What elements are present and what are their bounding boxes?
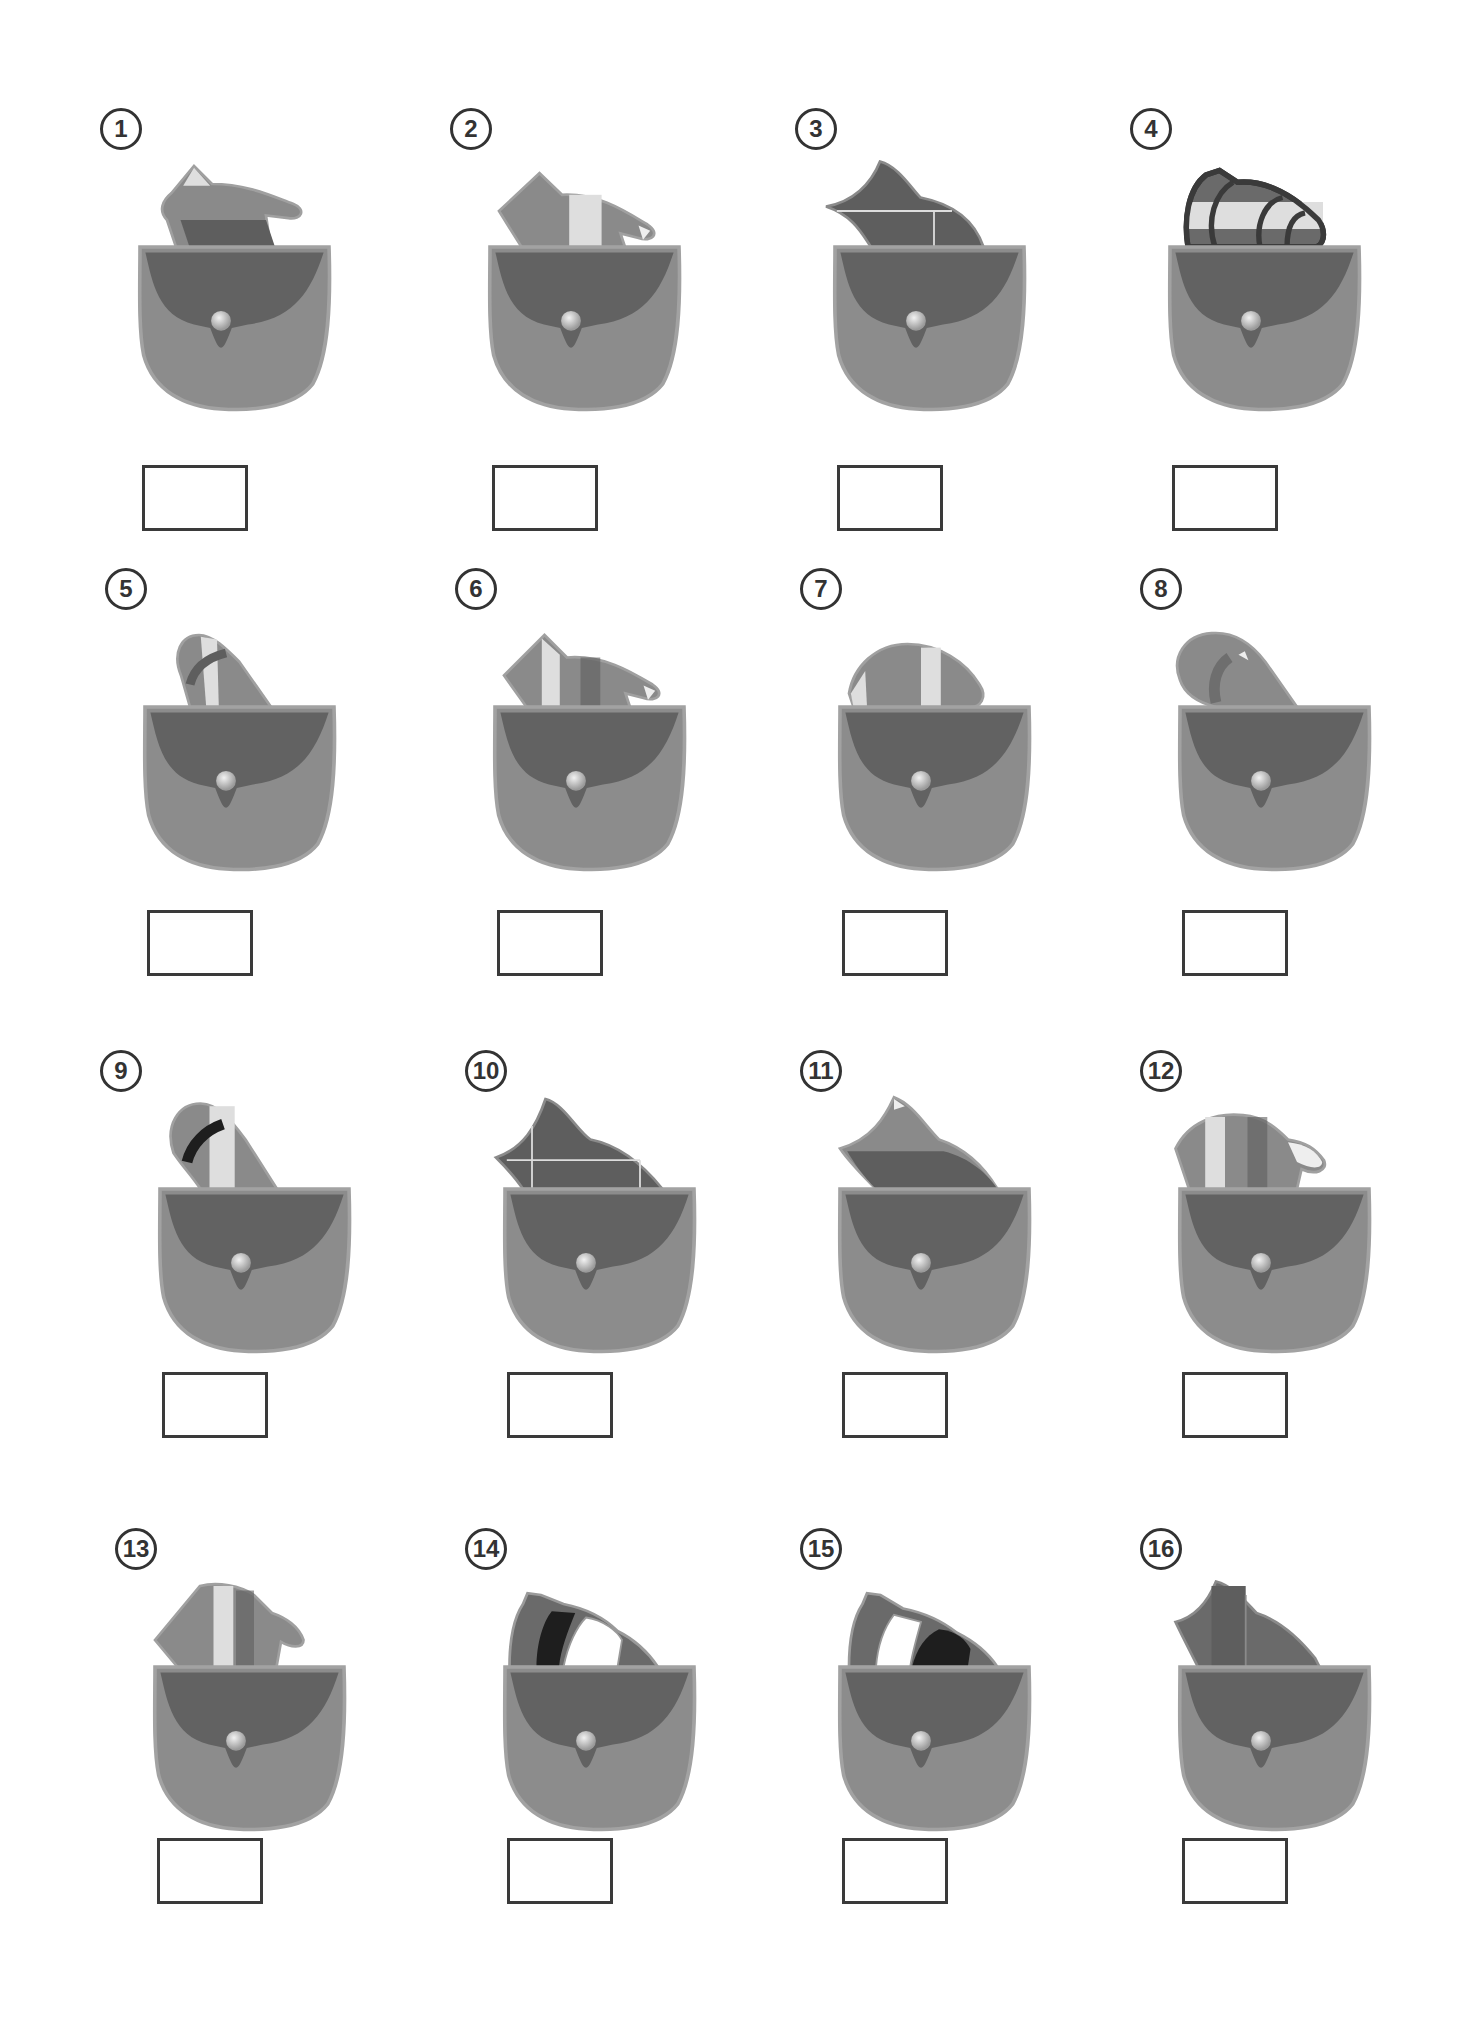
- item-number-badge: 5: [105, 568, 147, 610]
- glove-in-pocket-illustration: [475, 1568, 715, 1838]
- item-number-badge: 7: [800, 568, 842, 610]
- item-number-badge: 14: [465, 1528, 507, 1570]
- answer-box[interactable]: [157, 1838, 263, 1904]
- item-number-badge: 10: [465, 1050, 507, 1092]
- worksheet-item-5: 5: [75, 568, 375, 988]
- glove-in-pocket-illustration: [1150, 1090, 1390, 1360]
- worksheet-item-6: 6: [425, 568, 725, 988]
- worksheet-item-2: 2: [420, 108, 720, 528]
- answer-box[interactable]: [507, 1838, 613, 1904]
- glove-in-pocket-illustration: [1140, 148, 1380, 418]
- glove-in-pocket-illustration: [115, 608, 355, 878]
- item-number-badge: 6: [455, 568, 497, 610]
- item-number-badge: 16: [1140, 1528, 1182, 1570]
- glove-in-pocket-illustration: [1150, 608, 1390, 878]
- glove-in-pocket-illustration: [810, 1090, 1050, 1360]
- answer-box[interactable]: [162, 1372, 268, 1438]
- item-number-badge: 3: [795, 108, 837, 150]
- answer-box[interactable]: [837, 465, 943, 531]
- glove-in-pocket-illustration: [460, 148, 700, 418]
- item-number-badge: 12: [1140, 1050, 1182, 1092]
- answer-box[interactable]: [842, 910, 948, 976]
- item-number-badge: 1: [100, 108, 142, 150]
- glove-in-pocket-illustration: [805, 148, 1045, 418]
- glove-in-pocket-illustration: [810, 608, 1050, 878]
- answer-box[interactable]: [147, 910, 253, 976]
- item-number-badge: 2: [450, 108, 492, 150]
- answer-box[interactable]: [1182, 1838, 1288, 1904]
- worksheet-item-12: 12: [1110, 1050, 1410, 1470]
- worksheet-item-4: 4: [1100, 108, 1400, 528]
- glove-in-pocket-illustration: [810, 1568, 1050, 1838]
- worksheet-item-13: 13: [85, 1528, 385, 1948]
- answer-box[interactable]: [492, 465, 598, 531]
- item-number-badge: 13: [115, 1528, 157, 1570]
- worksheet-item-8: 8: [1110, 568, 1410, 988]
- worksheet-item-3: 3: [765, 108, 1065, 528]
- glove-in-pocket-illustration: [125, 1568, 365, 1838]
- glove-in-pocket-illustration: [130, 1090, 370, 1360]
- answer-box[interactable]: [507, 1372, 613, 1438]
- worksheet-item-16: 16: [1110, 1528, 1410, 1948]
- glove-in-pocket-illustration: [475, 1090, 715, 1360]
- glove-in-pocket-illustration: [110, 148, 350, 418]
- glove-in-pocket-illustration: [1150, 1568, 1390, 1838]
- answer-box[interactable]: [842, 1838, 948, 1904]
- answer-box[interactable]: [1182, 1372, 1288, 1438]
- item-number-badge: 8: [1140, 568, 1182, 610]
- worksheet-item-9: 9: [90, 1050, 390, 1470]
- item-number-badge: 11: [800, 1050, 842, 1092]
- worksheet-item-10: 10: [435, 1050, 735, 1470]
- worksheet-item-1: 1: [70, 108, 370, 528]
- worksheet-item-15: 15: [770, 1528, 1070, 1948]
- glove-in-pocket-illustration: [465, 608, 705, 878]
- answer-box[interactable]: [142, 465, 248, 531]
- worksheet-item-11: 11: [770, 1050, 1070, 1470]
- item-number-badge: 4: [1130, 108, 1172, 150]
- answer-box[interactable]: [1182, 910, 1288, 976]
- answer-box[interactable]: [842, 1372, 948, 1438]
- answer-box[interactable]: [1172, 465, 1278, 531]
- worksheet-item-14: 14: [435, 1528, 735, 1948]
- answer-box[interactable]: [497, 910, 603, 976]
- worksheet-item-7: 7: [770, 568, 1070, 988]
- item-number-badge: 9: [100, 1050, 142, 1092]
- item-number-badge: 15: [800, 1528, 842, 1570]
